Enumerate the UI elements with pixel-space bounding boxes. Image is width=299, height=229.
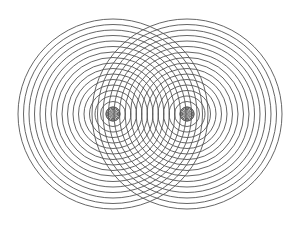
ring bbox=[29, 30, 197, 198]
ring bbox=[175, 102, 200, 127]
core-ring bbox=[186, 113, 188, 115]
ring bbox=[158, 85, 216, 143]
interference-diagram bbox=[0, 0, 299, 229]
ring bbox=[101, 102, 126, 127]
ring bbox=[62, 63, 164, 165]
ring bbox=[46, 47, 181, 182]
ring bbox=[125, 52, 249, 176]
ring bbox=[147, 74, 227, 154]
ring bbox=[84, 85, 142, 143]
core-ring bbox=[111, 112, 115, 116]
ring bbox=[98, 25, 277, 204]
ring bbox=[51, 52, 175, 176]
ring bbox=[18, 19, 208, 209]
concentric-circles-figure bbox=[0, 0, 299, 229]
ring bbox=[164, 91, 211, 138]
ring bbox=[35, 36, 192, 193]
ring bbox=[79, 80, 148, 149]
ring bbox=[24, 25, 203, 204]
ring bbox=[153, 80, 222, 149]
ring bbox=[73, 74, 153, 154]
ring bbox=[109, 36, 266, 193]
right-source-rings bbox=[92, 19, 282, 209]
ring bbox=[136, 63, 238, 165]
ring bbox=[90, 91, 137, 138]
core-ring bbox=[185, 112, 189, 116]
ring bbox=[68, 69, 159, 160]
ring bbox=[103, 30, 271, 198]
left-source-rings bbox=[18, 19, 208, 209]
ring bbox=[92, 19, 282, 209]
ring bbox=[142, 69, 233, 160]
ring bbox=[120, 47, 255, 182]
